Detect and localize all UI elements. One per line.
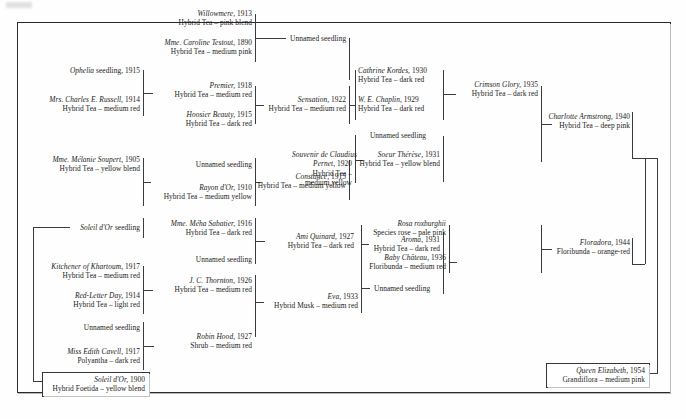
node-year: 1926 bbox=[237, 276, 252, 285]
node-name: Ophelia bbox=[70, 66, 94, 75]
connector-h-queen-elizabeth-in bbox=[650, 373, 658, 374]
node-eva: Eva, 1933 Hybrid Musk – medium red bbox=[252, 292, 358, 310]
connector-v-unnamed-seedling-top bbox=[349, 38, 350, 80]
node-name: Rayon d'Or, bbox=[199, 183, 235, 192]
node-soleil-dor-boxed: Soleil d'Or, 1900 Hybrid Foetida – yello… bbox=[42, 372, 150, 397]
node-name: Cathrine Kordes, bbox=[358, 66, 410, 75]
node-year: 1916 bbox=[237, 219, 252, 228]
node-class: Hybrid Tea – light red bbox=[73, 300, 140, 309]
node-mme-melanie-soupert: Mme. Mélanie Soupert, 1905 Hybrid Tea – … bbox=[20, 155, 140, 173]
node-year: 1900 bbox=[130, 375, 145, 384]
node-class: Hybrid Tea – medium red bbox=[63, 104, 141, 113]
node-class: Floribunda – orange-red bbox=[557, 247, 630, 256]
node-ami-quinard: Ami Quinard, 1927 Hybrid Tea – dark red bbox=[242, 232, 354, 250]
node-name: Red-Letter Day, bbox=[75, 291, 123, 300]
node-class: Hybrid Tea – yellow blend bbox=[360, 159, 440, 168]
connector-v-roxburghii-chateau bbox=[449, 225, 450, 273]
node-name: Queen Elizabeth, bbox=[576, 366, 628, 375]
node-name: Unnamed seedling bbox=[84, 323, 140, 332]
connector-v-soeur-therese bbox=[443, 136, 444, 182]
node-name: Mme. Méha Sabatier, bbox=[171, 219, 235, 228]
node-rosa-roxburghii: Rosa roxburghii Species rose – pale pink bbox=[350, 219, 446, 237]
node-aroma: Aroma, 1931 Hybrid Tea – dark red bbox=[340, 235, 440, 253]
node-class: Hybrid Tea – dark red bbox=[186, 119, 252, 128]
node-willowmere: Willowmere, 1913 Hybrid Tea – pink blend bbox=[60, 9, 252, 27]
node-crimson-glory: Crimson Glory, 1935 Hybrid Tea – dark re… bbox=[424, 80, 538, 98]
node-year: 1914 bbox=[125, 95, 140, 104]
node-name: Unnamed seedling bbox=[370, 131, 426, 140]
node-class: Hybrid Tea – medium red bbox=[175, 285, 253, 294]
node-name: Rosa roxburghii bbox=[397, 219, 446, 228]
pedigree-chart-page: Willowmere, 1913 Hybrid Tea – pink blend… bbox=[0, 0, 686, 419]
node-year: 1944 bbox=[615, 238, 630, 247]
node-year: 1931 bbox=[425, 150, 440, 159]
node-ophelia-seedling: Ophelia seedling, 1915 bbox=[20, 66, 140, 75]
node-class: Hybrid Tea – medium red bbox=[63, 271, 141, 280]
connector-h-charlotte-to-bus bbox=[632, 158, 645, 159]
node-unnamed-seedling-ami: Unnamed seedling bbox=[170, 255, 252, 264]
node-year: 1954 bbox=[630, 366, 645, 375]
connector-h-to-unnamed-aroma bbox=[361, 288, 370, 289]
node-constance: Constance, 1915 Hybrid Tea – medium yell… bbox=[232, 172, 346, 190]
node-class: Grandiflora – medium pink bbox=[562, 375, 645, 384]
node-year: 1940 bbox=[615, 112, 630, 121]
node-class: Hybrid Tea – medium yellow bbox=[258, 181, 346, 190]
node-class: Hybrid Tea – medium red bbox=[269, 104, 347, 113]
node-name: Eva, bbox=[327, 292, 341, 301]
node-unnamed-seedling-top: Unnamed seedling bbox=[290, 34, 350, 43]
node-name: Kitchener of Khartoum, bbox=[51, 262, 123, 271]
node-class: Hybrid Tea – medium pink bbox=[171, 47, 252, 56]
node-class: Hybrid Musk – medium red bbox=[274, 301, 358, 310]
node-name: Unnamed seedling bbox=[196, 255, 252, 264]
node-name: Sensation, bbox=[298, 95, 329, 104]
chart-border bbox=[17, 22, 671, 393]
node-year: 1905 bbox=[125, 155, 140, 164]
node-name: Miss Edith Cavell, bbox=[67, 347, 123, 356]
node-year: 1890 bbox=[237, 38, 252, 47]
node-name: Ami Quinard, bbox=[296, 232, 337, 241]
node-class: Hybrid Tea – dark red bbox=[358, 104, 424, 113]
node-year: 1930 bbox=[412, 66, 427, 75]
node-suffix: seedling, 1915 bbox=[96, 66, 140, 75]
node-charlotte-armstrong: Charlotte Armstrong, 1940 Hybrid Tea – d… bbox=[502, 112, 630, 130]
node-name: Unnamed seedling bbox=[290, 34, 346, 43]
connector-v-queen-elizabeth-bus bbox=[645, 158, 646, 264]
node-name: Charlotte Armstrong, bbox=[549, 112, 613, 121]
node-name: Mrs. Charles E. Russell, bbox=[49, 95, 123, 104]
node-class: Hybrid Tea – medium yellow bbox=[164, 192, 252, 201]
connector-h-queen-elizabeth-top bbox=[645, 158, 658, 159]
node-name: Floradora, bbox=[580, 238, 613, 247]
connector-v-charlotte-armstrong bbox=[632, 112, 633, 158]
connector-v-floradora bbox=[632, 238, 633, 264]
node-mme-caroline-testout: Mme. Caroline Testout, 1890 Hybrid Tea –… bbox=[50, 38, 252, 56]
node-name: Soleil d'Or bbox=[80, 223, 113, 232]
node-suffix: seedling bbox=[115, 223, 140, 232]
node-class: Hybrid Tea – pink blend bbox=[179, 18, 252, 27]
node-class: Hybrid Tea – dark red bbox=[358, 75, 424, 84]
connector-h-floradora-to-bus bbox=[632, 264, 645, 265]
node-robin-hood: Robin Hood, 1927 Shrub – medium red bbox=[148, 332, 252, 350]
node-name: Constance, bbox=[295, 172, 329, 181]
node-unnamed-seedling-robin: Unnamed seedling bbox=[58, 323, 140, 332]
node-year: 1927 bbox=[237, 332, 252, 341]
node-class: Hybrid Tea – yellow blend bbox=[60, 164, 140, 173]
node-year: 1915 bbox=[331, 172, 346, 181]
node-name: Mme. Caroline Testout, bbox=[164, 38, 235, 47]
node-unnamed-seedling-rayon: Unnamed seedling bbox=[170, 160, 252, 169]
node-year: 1917 bbox=[125, 347, 140, 356]
connector-h-to-unnamed-seedling-top bbox=[255, 38, 286, 39]
node-name: Crimson Glory, bbox=[474, 80, 521, 89]
node-name: Unnamed seedling bbox=[196, 160, 252, 169]
node-floradora: Floradora, 1944 Floribunda – orange-red bbox=[524, 238, 630, 256]
node-soleil-dor-seedling: Soleil d'Or seedling bbox=[50, 223, 140, 232]
node-sensation: Sensation, 1922 Hybrid Tea – medium red bbox=[232, 95, 346, 113]
node-year: 1914 bbox=[125, 291, 140, 300]
node-red-letter-day: Red-Letter Day, 1914 Hybrid Tea – light … bbox=[26, 291, 140, 309]
node-queen-elizabeth-boxed: Queen Elizabeth, 1954 Grandiflora – medi… bbox=[546, 363, 650, 388]
node-class: Polyantha – dark red bbox=[77, 356, 140, 365]
node-unnamed-seedling-aroma: Unnamed seedling bbox=[374, 284, 456, 293]
node-name: Soleil d'Or, bbox=[94, 375, 128, 384]
node-name: Soeur Thérèse, bbox=[378, 150, 423, 159]
node-mrs-charles-e-russell: Mrs. Charles E. Russell, 1914 Hybrid Tea… bbox=[8, 95, 140, 113]
node-name: J. C. Thornton, bbox=[189, 276, 235, 285]
